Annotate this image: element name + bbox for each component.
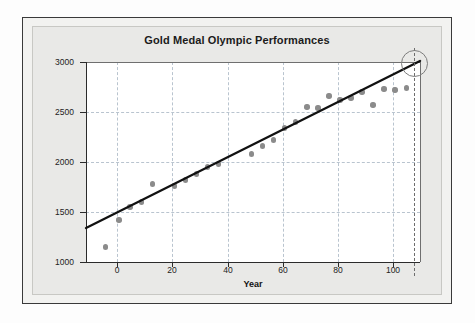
y-tick-mark-2000	[80, 162, 86, 163]
extrapolated-prediction-highlight	[401, 50, 428, 77]
y-tick-mark-3000	[80, 62, 86, 63]
data-point	[183, 177, 188, 182]
data-point	[103, 244, 108, 249]
plot-border-top	[86, 62, 420, 63]
y-tick-label-2000: 2000	[32, 158, 74, 167]
gridline-x-80	[338, 62, 339, 262]
data-point	[260, 143, 265, 148]
gridline-x-0	[117, 62, 118, 262]
gridline-y-1500	[86, 212, 420, 213]
y-tick-mark-1500	[80, 212, 86, 213]
data-point	[172, 183, 177, 188]
y-tick-label-3000: 3000	[32, 58, 74, 67]
data-point	[249, 151, 254, 156]
data-point	[315, 105, 320, 110]
x-tick-label-60: 60	[263, 266, 303, 275]
x-axis-line	[86, 262, 420, 263]
gridline-x-40	[228, 62, 229, 262]
y-tick-mark-2500	[80, 112, 86, 113]
data-point	[404, 85, 409, 90]
data-point	[337, 97, 342, 102]
data-point	[392, 87, 397, 92]
data-point	[127, 204, 132, 209]
gridline-y-2000	[86, 162, 420, 163]
data-point	[194, 171, 199, 176]
chart-screenshot: Gold Medal Olympic Performances 3000 250…	[0, 0, 475, 323]
data-point	[205, 164, 210, 169]
data-point	[348, 95, 353, 100]
x-axis-title: Year	[86, 279, 420, 289]
x-tick-label-80: 80	[318, 266, 358, 275]
y-tick-label-1000: 1000	[32, 258, 74, 267]
data-point	[216, 161, 221, 166]
gridline-x-20	[172, 62, 173, 262]
y-tick-label-1500: 1500	[32, 208, 74, 217]
y-tick-label-2500: 2500	[32, 108, 74, 117]
x-tick-label-100: 100	[373, 266, 413, 275]
plot-border-right	[420, 62, 421, 262]
gridline-x-60	[283, 62, 284, 262]
data-point	[116, 217, 121, 222]
data-point	[139, 199, 144, 204]
x-tick-label-20: 20	[152, 266, 192, 275]
gridline-y-2500	[86, 112, 420, 113]
x-tick-label-40: 40	[208, 266, 248, 275]
data-point	[150, 181, 155, 186]
data-point	[359, 89, 364, 94]
data-point	[326, 93, 331, 98]
x-tick-label-0: 0	[97, 266, 137, 275]
data-point	[370, 102, 375, 107]
data-point	[304, 104, 309, 109]
y-tick-mark-1000	[80, 262, 86, 263]
data-point	[381, 86, 386, 91]
y-axis-line	[86, 62, 87, 262]
chart-title: Gold Medal Olympic Performances	[32, 34, 442, 46]
prediction-year-marker	[414, 48, 415, 276]
